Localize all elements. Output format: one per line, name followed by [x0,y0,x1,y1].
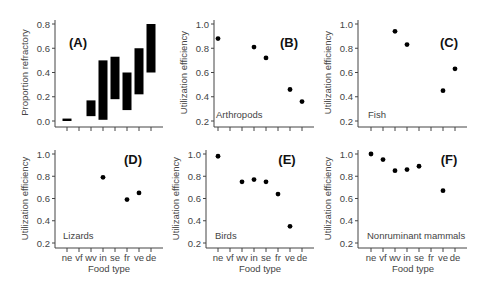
data-point [216,154,221,159]
x-tick-label: vf [379,252,387,263]
y-tick-label: 0.6 [340,67,353,78]
data-point [300,99,305,104]
group-label: Arthropods [216,109,263,120]
y-tick-label: 0.8 [37,171,50,182]
y-tick-label: 0.8 [340,171,353,182]
data-point [441,188,446,193]
y-tick-label: 0.0 [37,116,50,127]
x-tick-label: de [146,252,157,263]
y-tick-label: 0.8 [37,19,50,30]
x-axis-title: Food type [239,263,281,274]
range-bar [111,57,120,99]
y-tick-label: 0.8 [340,43,353,54]
x-tick-label: ne [366,252,377,263]
x-tick-label: fr [275,252,281,263]
y-tick-label: 0.2 [340,238,353,249]
data-point [137,191,142,196]
group-label: Birds [215,230,237,241]
x-axis-title: Food type [88,263,130,274]
data-point [264,179,269,184]
data-point [453,66,458,71]
panel-letter: (D) [124,152,142,167]
range-bar [147,24,156,73]
y-tick-label: 0.6 [37,43,50,54]
panel-a: 0.00.20.40.60.8Proportion refractory(A) [19,19,163,132]
y-tick-label: 0.4 [196,91,209,102]
data-point [216,36,221,41]
x-tick-label: wv [388,252,401,263]
x-tick-label: ve [438,252,448,263]
y-tick-label: 0.4 [37,67,50,78]
x-tick-label: vf [75,252,83,263]
x-tick-label: in [99,252,106,263]
data-point [252,177,257,182]
x-tick-label: in [403,252,410,263]
x-tick-label: de [450,252,461,263]
y-tick-label: 0.6 [196,67,209,78]
x-axis-title: Food type [392,263,434,274]
data-point [405,167,410,172]
x-tick-label: se [414,252,424,263]
range-bar [135,48,144,94]
figure: 0.00.20.40.60.8Proportion refractory(A)0… [0,0,490,289]
range-bar [87,100,96,116]
y-tick-label: 0.2 [196,116,209,127]
y-tick-label: 1.0 [37,149,50,160]
y-tick-label: 0.6 [340,193,353,204]
y-axis-title: Utilization efficiency [19,157,30,241]
y-axis-title: Utilization efficiency [322,31,333,115]
data-point [264,56,269,61]
panel-letter: (E) [278,152,295,167]
data-point [369,152,374,157]
y-tick-label: 0.4 [37,215,50,226]
data-point [276,192,281,197]
x-tick-label: vf [226,252,234,263]
y-tick-label: 0.2 [37,238,50,249]
panel-c: 0.20.40.60.81.0Utilization efficiency(C)… [322,19,467,132]
group-label: Nonruminant mammals [367,230,465,241]
group-label: Fish [368,109,386,120]
data-point [288,87,293,92]
range-bar [99,60,108,119]
y-tick-label: 1.0 [340,149,353,160]
x-tick-label: wv [84,252,97,263]
panel-e: 0.20.40.60.81.0nevfwvinsefrvedeFood type… [170,149,314,275]
x-tick-label: ne [213,252,224,263]
y-tick-label: 0.4 [188,215,201,226]
x-tick-label: se [110,252,120,263]
x-tick-label: se [261,252,271,263]
y-tick-label: 0.2 [188,238,201,249]
y-tick-label: 0.8 [196,43,209,54]
range-bar [123,73,132,111]
y-tick-label: 1.0 [188,149,201,160]
data-point [101,175,106,180]
y-tick-label: 0.4 [340,215,353,226]
x-tick-label: ve [285,252,295,263]
y-axis-title: Proportion refractory [19,29,30,116]
data-point [288,224,293,229]
y-tick-label: 0.2 [37,91,50,102]
data-point [417,164,422,169]
data-point [381,157,386,162]
group-label: Lizards [63,230,94,241]
y-tick-label: 0.8 [188,171,201,182]
y-axis-title: Utilization efficiency [178,31,189,115]
x-tick-label: wv [235,252,248,263]
y-tick-label: 0.2 [340,116,353,127]
data-point [252,45,257,50]
x-tick-label: fr [428,252,434,263]
panel-letter: (F) [441,152,458,167]
y-tick-label: 0.6 [37,193,50,204]
data-point [393,29,398,34]
x-tick-label: ne [62,252,73,263]
y-tick-label: 1.0 [340,19,353,30]
data-point [405,42,410,47]
y-tick-label: 0.4 [340,91,353,102]
y-axis-title: Utilization efficiency [170,157,181,241]
panel-d: 0.20.40.60.81.0nevfwvinsefrvedeFood type… [19,149,163,275]
data-point [240,179,245,184]
panel-letter: (C) [440,35,458,50]
panel-letter: (B) [280,35,298,50]
x-tick-label: in [250,252,257,263]
y-axis-title: Utilization efficiency [322,157,333,241]
